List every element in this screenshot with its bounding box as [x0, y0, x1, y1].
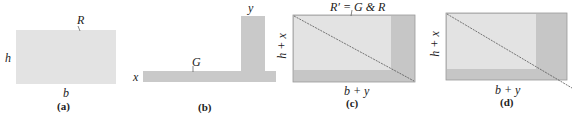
caption-d: (d): [500, 97, 513, 108]
region-g-vertical: [241, 16, 265, 82]
region-r: [16, 30, 116, 84]
label-g: G: [192, 56, 201, 68]
label-h-plus-x-d: h + x: [429, 31, 441, 56]
label-r: R: [77, 14, 84, 26]
label-y: y: [248, 2, 253, 14]
caption-c: (c): [346, 98, 358, 109]
label-h: h: [5, 52, 11, 64]
label-r-prime: R′ = G & R: [330, 1, 385, 13]
label-h-plus-x-c: h + x: [276, 33, 288, 58]
label-x: x: [133, 71, 138, 83]
label-b-plus-y-c: b + y: [344, 85, 369, 97]
caption-b: (b): [198, 102, 211, 113]
label-b-plus-y-d: b + y: [495, 84, 520, 96]
caption-a: (a): [57, 101, 70, 112]
label-b: b: [63, 87, 69, 99]
